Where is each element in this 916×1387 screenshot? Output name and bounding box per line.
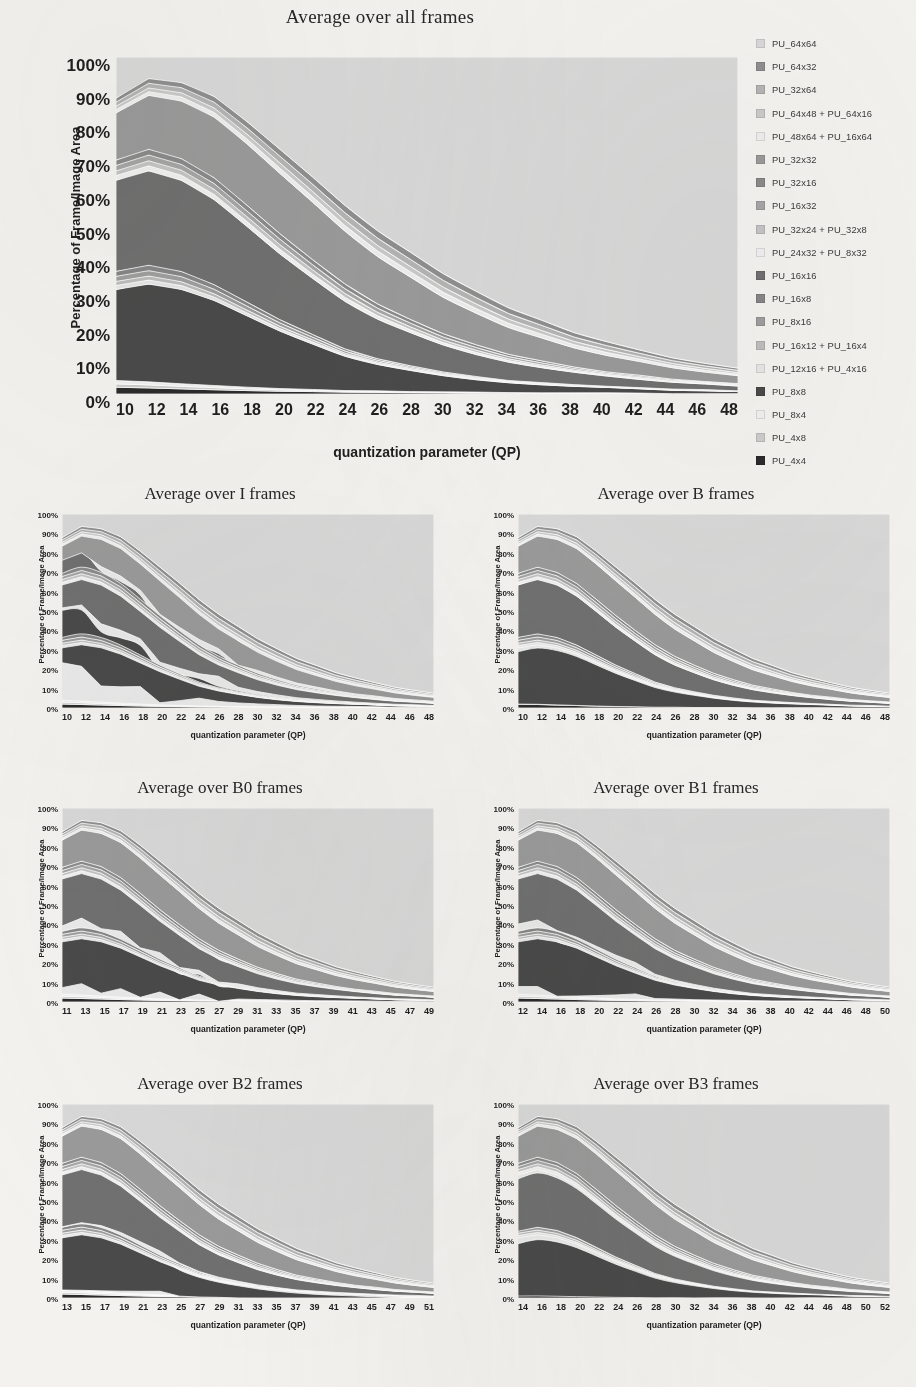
legend-item[interactable]: PU_64x64 [756,32,916,55]
subplot-x-tick: 14 [518,1302,528,1312]
subplot-x-tick: 40 [785,1006,795,1016]
main-x-tick: 18 [243,401,261,419]
legend-item[interactable]: PU_64x32 [756,55,916,78]
main-y-tick: 90% [40,91,110,108]
subplot-x-tick: 25 [176,1302,186,1312]
subplot-x-tick: 38 [785,712,795,722]
subplot-x-tick: 13 [81,1006,91,1016]
legend-item[interactable]: PU_16x16 [756,264,916,287]
legend-item[interactable]: PU_8x8 [756,380,916,403]
legend-item-label: PU_8x16 [772,316,811,327]
subplot-x-tick: 30 [708,712,718,722]
subplot-x-tick: 46 [405,712,415,722]
subplot-x-tick: 10 [518,712,528,722]
subplot-x-axis-title: quantization parameter (QP) [62,1320,434,1330]
subplot-x-tick: 22 [613,1006,623,1016]
main-x-tick: 48 [720,401,738,419]
subplot-x-tick: 41 [348,1006,358,1016]
legend-item[interactable]: PU_8x4 [756,403,916,426]
subplot-y-axis: 100%90%80%70%60%50%40%30%20%10%0%Percent… [472,802,514,1008]
subplot-x-tick: 46 [842,1006,852,1016]
legend-item-label: PU_32x24 + PU_32x8 [772,224,867,235]
main-y-tick: 60% [40,192,110,209]
main-chart-figure: Average over all frames Percentage of Fr… [0,0,760,478]
main-y-tick: 40% [40,259,110,276]
subplot-x-tick: 44 [823,1006,833,1016]
legend-item[interactable]: PU_24x32 + PU_8x32 [756,241,916,264]
main-x-tick: 44 [657,401,675,419]
subplot-x-tick: 35 [272,1302,282,1312]
legend-item[interactable]: PU_12x16 + PU_4x16 [756,357,916,380]
legend-swatch-icon [756,433,765,442]
subplot-x-tick: 38 [747,1302,757,1312]
main-x-tick: 46 [688,401,706,419]
main-y-tick: 20% [40,327,110,344]
main-x-axis-ticks: 1012141618202224262830323436384042444648 [116,398,738,422]
subplot-x-tick: 14 [537,1006,547,1016]
subplot-x-tick: 26 [632,1302,642,1312]
subplot-x-tick: 34 [708,1302,718,1312]
subplot-x-axis-ticks: 1012141618202224262830323436384042444648 [518,712,890,722]
legend-item[interactable]: PU_16x12 + PU_16x4 [756,333,916,356]
subplot-x-tick: 36 [728,1302,738,1312]
subplot-x-tick: 45 [386,1006,396,1016]
legend-swatch-icon [756,387,765,396]
subplot-x-tick: 13 [62,1302,72,1312]
legend-item[interactable]: PU_32x64 [756,78,916,101]
subplot-y-tick: 0% [16,706,58,714]
subplot-y-axis: 100%90%80%70%60%50%40%30%20%10%0%Percent… [472,508,514,714]
subplot-title: Average over I frames [0,484,446,504]
subplot-x-tick: 20 [613,712,623,722]
legend-swatch-icon [756,271,765,280]
subplot-x-tick: 26 [214,712,224,722]
subplot-x-tick: 14 [556,712,566,722]
subplot-x-tick: 26 [670,712,680,722]
legend-swatch-icon [756,201,765,210]
main-y-axis: Percentage of Frame/Image Area 100%90%80… [38,50,110,402]
subplot-x-tick: 50 [861,1302,871,1312]
subplot-y-tick: 0% [16,1296,58,1304]
subplot-x-tick: 30 [252,712,262,722]
legend-item[interactable]: PU_4x4 [756,449,916,472]
subplot-x-tick: 49 [405,1302,415,1312]
legend-item-label: PU_64x64 [772,38,817,49]
subplot-x-tick: 43 [348,1302,358,1312]
subplot-x-tick: 16 [575,712,585,722]
legend-item-label: PU_24x32 + PU_8x32 [772,247,867,258]
legend-swatch-icon [756,317,765,326]
legend-item[interactable]: PU_32x24 + PU_32x8 [756,218,916,241]
legend-item[interactable]: PU_4x8 [756,426,916,449]
subplot-x-tick: 28 [651,1302,661,1312]
subplot-x-tick: 43 [367,1006,377,1016]
subplot-y-axis: 100%90%80%70%60%50%40%30%20%10%0%Percent… [472,1098,514,1304]
page-title: Average over all frames [120,6,640,28]
subplot-x-tick: 24 [613,1302,623,1312]
subplot-x-axis-title: quantization parameter (QP) [518,730,890,740]
legend-item[interactable]: PU_32x16 [756,171,916,194]
subplot-x-tick: 27 [195,1302,205,1312]
legend-item[interactable]: PU_16x32 [756,194,916,217]
subplot-y-axis-title: Percentage of Frame/Image Area [37,814,46,984]
subplot-x-tick: 16 [556,1006,566,1016]
subplot-y-axis: 100%90%80%70%60%50%40%30%20%10%0%Percent… [16,802,58,1008]
subplot-b2-frames: Average over B2 frames100%90%80%70%60%50… [0,1074,446,1374]
legend-item[interactable]: PU_16x8 [756,287,916,310]
subplot-x-tick: 22 [594,1302,604,1312]
legend-item[interactable]: PU_32x32 [756,148,916,171]
main-y-tick: 70% [40,158,110,175]
legend-swatch-icon [756,364,765,373]
subplot-x-tick: 19 [138,1006,148,1016]
legend-item-label: PU_16x16 [772,270,817,281]
legend-item[interactable]: PU_48x64 + PU_16x64 [756,125,916,148]
legend-swatch-icon [756,341,765,350]
subplot-y-tick: 0% [472,706,514,714]
subplot-i-frames: Average over I frames100%90%80%70%60%50%… [0,484,446,784]
legend-item[interactable]: PU_64x48 + PU_64x16 [756,102,916,125]
main-y-tick: 100% [40,57,110,74]
subplot-x-tick: 49 [424,1006,434,1016]
main-x-tick: 30 [434,401,452,419]
subplot-x-tick: 47 [405,1006,415,1016]
main-x-tick: 10 [116,401,134,419]
subplot-x-tick: 50 [880,1006,890,1016]
legend-item[interactable]: PU_8x16 [756,310,916,333]
